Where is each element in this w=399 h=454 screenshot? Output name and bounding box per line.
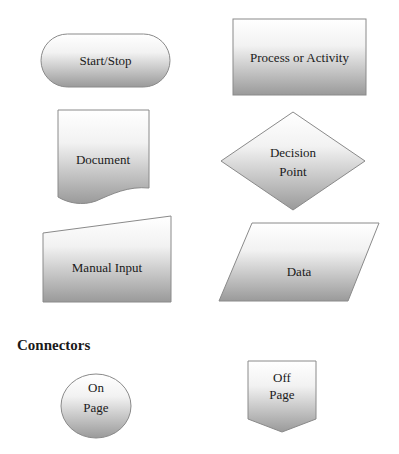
decision-label-line1: Decision <box>270 145 317 160</box>
document-label: Document <box>76 152 131 167</box>
decision-shape: Decision Point <box>221 112 365 210</box>
manual-input-shape: Manual Input <box>43 216 171 302</box>
manual-input-label: Manual Input <box>72 260 143 275</box>
off-page-label-line2: Page <box>269 387 295 402</box>
connectors-heading: Connectors <box>17 337 90 353</box>
start-stop-shape: Start/Stop <box>41 34 170 87</box>
on-page-connector-shape: On Page <box>61 374 131 438</box>
process-label: Process or Activity <box>250 50 349 65</box>
decision-label-line2: Point <box>279 164 307 179</box>
on-page-label-line1: On <box>88 380 104 395</box>
start-stop-label: Start/Stop <box>79 53 131 68</box>
data-shape: Data <box>219 223 379 301</box>
process-shape: Process or Activity <box>233 19 366 95</box>
off-page-connector-shape: Off Page <box>248 361 316 432</box>
flowchart-symbols-diagram: Start/Stop Process or Activity Document … <box>0 0 399 454</box>
document-shape: Document <box>58 110 149 204</box>
on-page-label-line2: Page <box>83 400 109 415</box>
data-label: Data <box>287 264 312 279</box>
off-page-label-line1: Off <box>273 370 291 385</box>
